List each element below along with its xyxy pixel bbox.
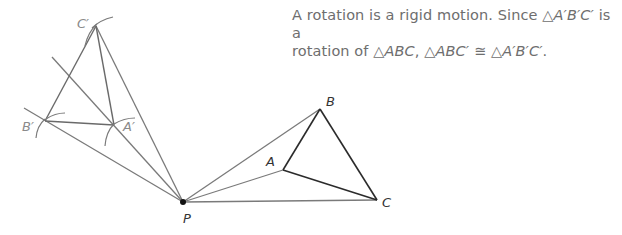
caption-text: . [543,43,548,59]
ray-P-A [183,170,283,202]
arc-Aprime-side [105,124,114,146]
label-P: P [183,211,191,226]
side-Bprime-Cprime [45,26,96,121]
caption-text: A rotation is a rigid motion. Since [292,7,542,23]
caption-text: , [415,43,424,59]
ray-P-B [183,109,320,202]
math-ABCprime: ABC′ [436,43,470,59]
triangle-symbol: △ [424,43,435,59]
caption-line-1: A rotation is a rigid motion. Since △A′B… [292,6,622,42]
label-A: A [265,154,275,169]
ray-P-C [183,200,377,202]
caption: A rotation is a rigid motion. Since △A′B… [292,6,622,60]
construction-rays-original [183,109,377,202]
caption-line-2: rotation of △ABC, △ABC′ ≅ △A′B′C′. [292,42,622,60]
math-AprimeBprimeCprime: A′B′C′ [554,7,594,23]
triangle-symbol: △ [542,7,553,23]
label-B-prime: B′ [22,119,34,134]
construction-rays-image [24,26,183,202]
side-B-C [320,109,377,200]
math-AprimeBprimeCprime: A′B′C′ [502,43,542,59]
label-C: C [382,195,392,210]
math-ABC: ABC [385,43,415,59]
label-A-prime: A′ [122,119,135,134]
triangle-symbol: △ [373,43,384,59]
label-C-prime: C′ [77,16,89,31]
center-point-P [180,199,186,205]
side-Aprime-Cprime [96,26,114,125]
ray-P-Aprime-extended [52,57,183,202]
congruent-symbol: ≅ [469,43,491,59]
label-B: B [326,94,335,109]
caption-text: rotation of [292,43,373,59]
side-A-C [283,170,377,200]
side-A-B [283,109,320,170]
arc-Bprime-side [36,119,45,138]
side-Aprime-Bprime [45,121,114,125]
triangle-symbol: △ [491,43,502,59]
original-triangle [283,109,377,200]
compass-arcs [36,17,135,146]
